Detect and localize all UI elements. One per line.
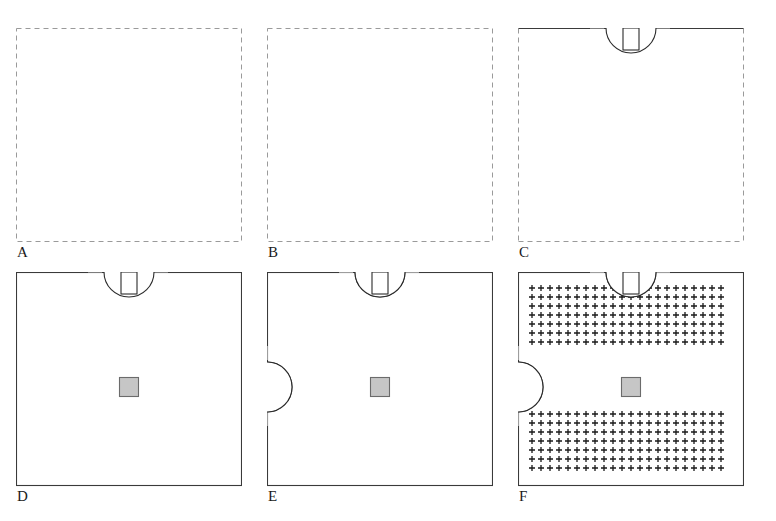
panel-label-e: E <box>268 489 277 504</box>
panel-label-c: C <box>519 245 529 260</box>
right-boss-circle <box>518 362 543 412</box>
panel-a: A <box>16 28 242 264</box>
panel-label-d: D <box>17 489 28 504</box>
right-boss-circle <box>267 362 292 412</box>
panel-border <box>17 29 242 242</box>
panel-b: B <box>267 28 493 264</box>
top-stem-rect <box>121 272 137 294</box>
center-bore-square <box>371 378 390 397</box>
figure-root: ABCDEF <box>0 0 776 521</box>
panel-f: F <box>518 272 744 508</box>
panel-label-b: B <box>268 245 278 260</box>
center-bore-square <box>120 378 139 397</box>
panel-d: D <box>16 272 242 508</box>
top-stem-rect <box>623 28 639 50</box>
panel-label-a: A <box>17 245 28 260</box>
top-stem-rect <box>372 272 388 294</box>
top-stem-rect <box>623 272 639 294</box>
panel-border <box>519 29 744 242</box>
center-bore-square <box>622 378 641 397</box>
panel-e: E <box>267 272 493 508</box>
panel-c: C <box>518 28 744 264</box>
hatch-field-bottom <box>529 411 724 471</box>
panel-border <box>268 29 493 242</box>
panel-label-f: F <box>519 489 528 504</box>
